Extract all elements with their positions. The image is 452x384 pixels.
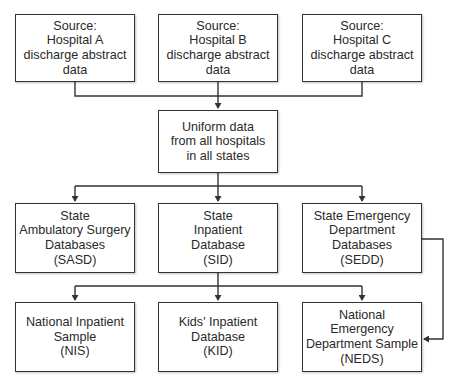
node-label: Source: Hospital B discharge abstract da…	[167, 19, 270, 77]
node-label: State Ambulatory Surgery Databases (SASD…	[19, 209, 130, 267]
node-nis: National Inpatient Sample (NIS)	[15, 302, 135, 372]
node-label: Source: Hospital A discharge abstract da…	[24, 19, 127, 77]
node-label: State Emergency Department Databases (SE…	[314, 209, 411, 267]
node-label: Kids' Inpatient Database (KID)	[179, 315, 258, 359]
node-uniform-data: Uniform data from all hospitals in all s…	[158, 110, 278, 173]
node-sid: State Inpatient Database (SID)	[158, 203, 278, 273]
node-label: State Inpatient Database (SID)	[191, 209, 245, 267]
node-neds: National Emergency Department Sample (NE…	[302, 302, 422, 372]
node-hospital-a: Source: Hospital A discharge abstract da…	[15, 14, 135, 82]
node-label: Uniform data from all hospitals in all s…	[171, 120, 266, 164]
edge-sid-split	[75, 273, 362, 286]
node-hospital-b: Source: Hospital B discharge abstract da…	[158, 14, 278, 82]
edge-sedd-to-neds	[422, 239, 443, 339]
node-label: National Emergency Department Sample (NE…	[306, 308, 418, 366]
node-kid: Kids' Inpatient Database (KID)	[158, 302, 278, 372]
node-sasd: State Ambulatory Surgery Databases (SASD…	[15, 203, 135, 273]
node-label: Source: Hospital C discharge abstract da…	[311, 19, 414, 77]
node-sedd: State Emergency Department Databases (SE…	[302, 203, 422, 273]
edge-hospitals-merge	[75, 82, 362, 96]
edge-uniform-split	[75, 173, 362, 186]
node-label: National Inpatient Sample (NIS)	[26, 315, 124, 359]
node-hospital-c: Source: Hospital C discharge abstract da…	[302, 14, 422, 82]
